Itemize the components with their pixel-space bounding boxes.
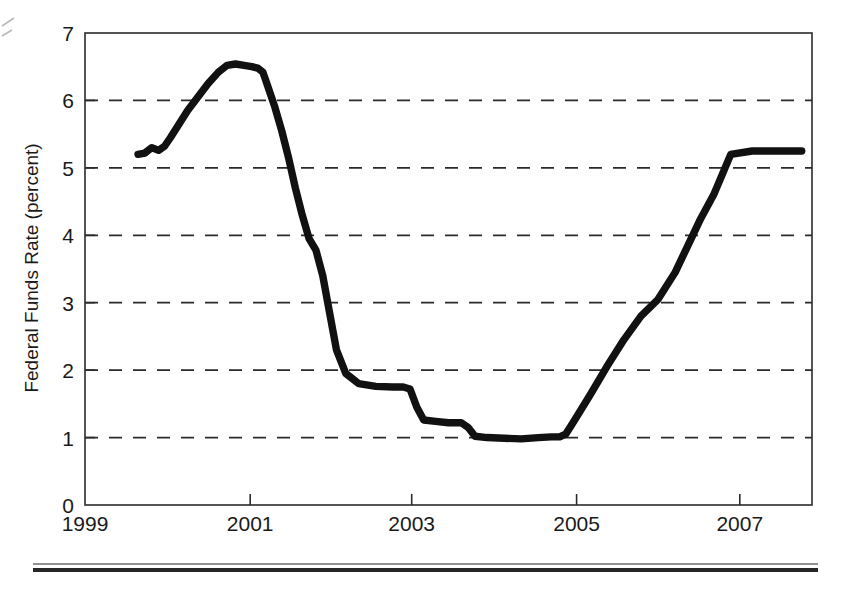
- figure-container: 7 6 5 4 3 2 1 0 1999 2001 2003 2005 2007…: [0, 0, 841, 592]
- bottom-rule: [33, 564, 818, 570]
- x-tick-labels: 1999 2001 2003 2005 2007: [62, 512, 764, 535]
- y-tick-label-3: 3: [62, 292, 74, 315]
- x-tick-label-2007: 2007: [716, 512, 763, 535]
- y-tick-label-7: 7: [62, 22, 74, 45]
- scan-artifact: [2, 18, 14, 36]
- x-tick-label-2005: 2005: [553, 512, 600, 535]
- x-axis-ticks: [250, 494, 740, 505]
- x-tick-label-2003: 2003: [388, 512, 435, 535]
- y-tick-label-4: 4: [62, 224, 74, 247]
- y-tick-label-1: 1: [62, 427, 74, 450]
- federal-funds-rate-line-chart: 7 6 5 4 3 2 1 0 1999 2001 2003 2005 2007…: [0, 0, 841, 592]
- x-tick-label-2001: 2001: [227, 512, 274, 535]
- y-axis-title: Federal Funds Rate (percent): [21, 143, 42, 392]
- y-tick-label-2: 2: [62, 359, 74, 382]
- x-tick-label-1999: 1999: [62, 512, 109, 535]
- y-tick-labels: 7 6 5 4 3 2 1 0: [62, 22, 74, 517]
- series-federal-funds-rate: [138, 64, 802, 439]
- y-tick-label-5: 5: [62, 157, 74, 180]
- gridlines: [85, 100, 812, 437]
- y-axis-ticks: [85, 100, 95, 437]
- y-tick-label-6: 6: [62, 89, 74, 112]
